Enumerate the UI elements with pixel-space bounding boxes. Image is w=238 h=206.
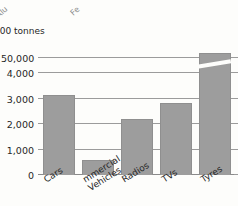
y-tick-label: 3,000	[1, 94, 34, 105]
bar-tvs	[160, 103, 192, 175]
y-tick-mark	[234, 72, 238, 73]
cut-label-fragment-right: Fe	[69, 0, 93, 19]
y-tick-label: 4,000	[1, 68, 34, 79]
y-tick-label: 2,000	[1, 119, 34, 130]
bar-chart: Alu Fe 000 tonnes 01,0002,0003,0004,0005…	[0, 0, 238, 206]
y-tick-mark	[234, 174, 238, 175]
y-tick-label: 0	[1, 170, 34, 181]
y-tick-mark	[234, 98, 238, 99]
y-tick-mark	[234, 57, 238, 58]
y-tick-label: 1,000	[1, 145, 34, 156]
y-axis-title: 000 tonnes	[0, 26, 45, 36]
bar-tyres	[199, 53, 231, 175]
bar-cars	[43, 95, 75, 175]
x-axis-labels: Carsmmercial VehiclesRadiosTVsTyres	[38, 176, 234, 206]
y-tick-mark	[234, 149, 238, 150]
y-tick-label: 50,000	[1, 53, 34, 64]
cut-label-fragment-left: Alu	[0, 0, 21, 22]
y-tick-mark	[234, 123, 238, 124]
